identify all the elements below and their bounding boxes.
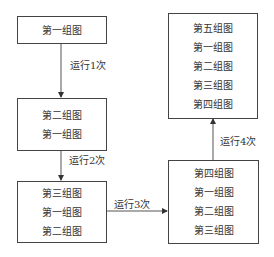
arrow-label-4: 运行4次 bbox=[220, 133, 256, 148]
box-group-4: 第四组图 第一组图 第二组图 第三组图 bbox=[168, 160, 259, 244]
box-item: 第三组图 bbox=[193, 76, 233, 95]
box-item: 第一组图 bbox=[193, 38, 233, 57]
box-group-3: 第三组图 第一组图 第二组图 bbox=[17, 181, 107, 243]
box-group-2: 第二组图 第一组图 bbox=[17, 98, 107, 151]
box-item: 第二组图 bbox=[194, 202, 234, 221]
box-item: 第四组图 bbox=[193, 95, 233, 114]
box-item: 第二组图 bbox=[193, 57, 233, 76]
box-item: 第一组图 bbox=[42, 203, 82, 222]
box-item: 第三组图 bbox=[42, 184, 82, 203]
box-item: 第二组图 bbox=[42, 222, 82, 241]
box-group-1: 第一组图 bbox=[17, 16, 107, 44]
arrow-label-3: 运行3次 bbox=[114, 196, 150, 211]
box-item: 第一组图 bbox=[42, 125, 82, 144]
box-item: 第二组图 bbox=[42, 106, 82, 125]
box-item: 第五组图 bbox=[193, 19, 233, 38]
box-item: 第一组图 bbox=[42, 21, 82, 40]
box-item: 第一组图 bbox=[194, 183, 234, 202]
box-item: 第三组图 bbox=[194, 221, 234, 240]
arrow-label-2: 运行2次 bbox=[69, 152, 105, 167]
box-group-5: 第五组图 第一组图 第二组图 第三组图 第四组图 bbox=[168, 13, 258, 119]
box-item: 第四组图 bbox=[194, 164, 234, 183]
arrow-label-1: 运行1次 bbox=[70, 57, 106, 72]
